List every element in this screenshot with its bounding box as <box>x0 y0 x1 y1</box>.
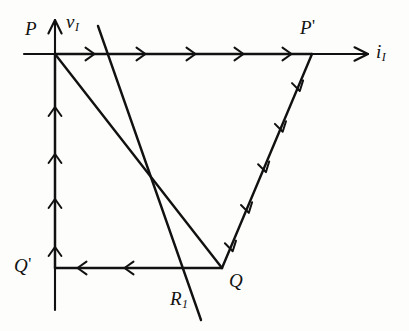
segment-Pprime-to-Q <box>222 54 312 268</box>
figure-container: P P' Q Q' vI iI R1 <box>0 0 409 331</box>
label-axis-v-subscript: I <box>74 20 79 34</box>
label-point-P-prime: P' <box>300 17 315 37</box>
label-point-P-prime-mark: ' <box>312 16 316 35</box>
label-axis-i: iI <box>376 42 386 63</box>
label-resistance-R1: R1 <box>170 289 188 310</box>
label-resistance-R1-subscript: 1 <box>182 297 189 311</box>
label-point-P: P <box>25 19 37 38</box>
resistance-line-R1 <box>98 26 201 320</box>
trajectory-path-group <box>55 54 312 268</box>
label-point-Q: Q <box>229 271 243 290</box>
label-point-P-text: P <box>25 18 37 39</box>
label-point-Q-prime-mark: ' <box>28 254 32 273</box>
label-axis-v: vI <box>66 12 79 33</box>
axes-group <box>24 20 368 310</box>
label-resistance-R1-base: R <box>170 288 182 309</box>
load-line-P-Q <box>55 54 222 268</box>
label-point-P-prime-text: P <box>300 17 312 38</box>
label-point-Q-text: Q <box>229 270 243 291</box>
label-axis-i-subscript: I <box>381 50 386 64</box>
label-point-Q-prime-text: Q <box>14 255 28 276</box>
label-point-Q-prime: Q' <box>14 255 31 275</box>
circuit-trajectory-figure <box>0 0 409 331</box>
